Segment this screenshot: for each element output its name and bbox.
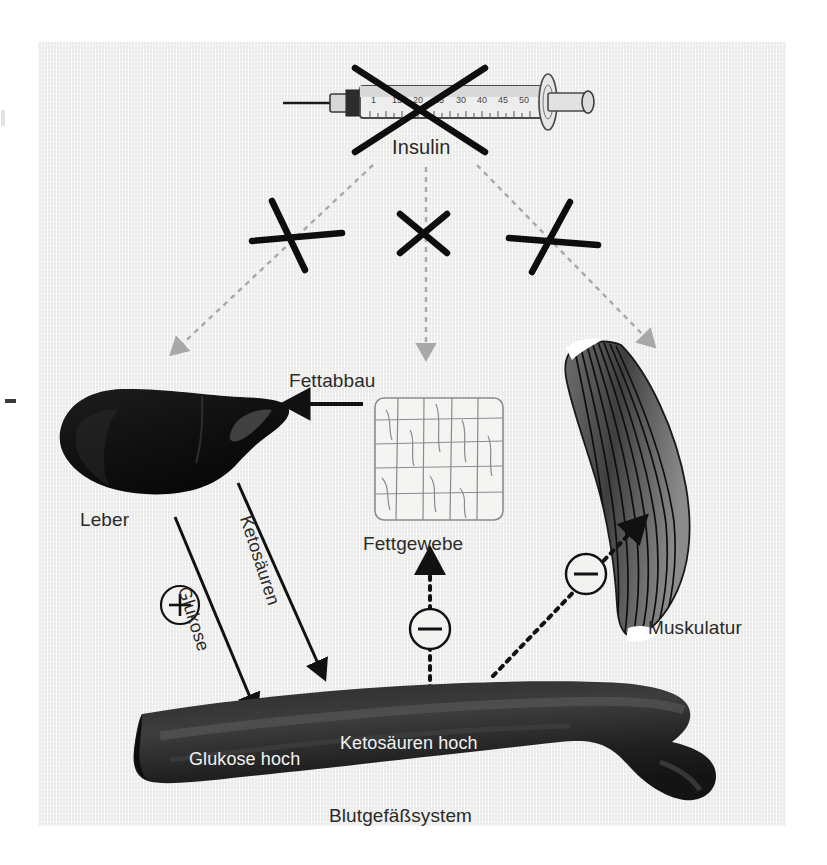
label-fettgewebe: Fettgewebe (363, 533, 463, 555)
label-leber: Leber (80, 509, 129, 531)
label-fettabbau: Fettabbau (289, 370, 375, 392)
diagram-canvas (38, 42, 786, 826)
label-insulin: Insulin (392, 136, 451, 159)
label-muskulatur: Muskulatur (648, 617, 742, 639)
label-glukose-hoch: Glukose hoch (189, 749, 300, 770)
scan-edge-artifact-top (1, 110, 5, 126)
label-ketosaeuren-hoch: Ketosäuren hoch (340, 733, 478, 754)
scan-edge-artifact-dash (5, 399, 16, 403)
label-blutgefaesssystem: Blutgefäßsystem (329, 805, 472, 827)
diagram-stage: 115 2025 3040 4550 (0, 0, 827, 865)
